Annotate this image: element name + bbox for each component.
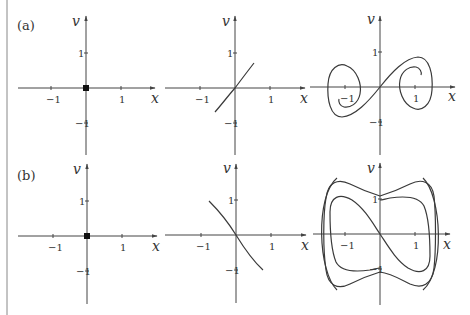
x-label: x: [448, 88, 456, 104]
x-tick-1: 1: [119, 94, 125, 105]
x-tick-neg1: −1: [340, 93, 355, 104]
x-tick-neg1: −1: [340, 240, 355, 251]
x-label: x: [443, 236, 451, 252]
row-label-a: (a): [17, 18, 35, 33]
v-tick-neg1: −1: [369, 117, 384, 128]
fixed-point: [83, 85, 89, 91]
v-tick-1: 1: [78, 48, 84, 59]
phase-portrait-figure: (a) (b) −1 1 1 −1 v x −1 1 1 −1 v x: [0, 0, 470, 315]
trajectory-right-loop: [380, 57, 432, 109]
v-tick-neg1: −1: [225, 265, 240, 276]
x-tick-neg1: −1: [196, 241, 211, 252]
x-label: x: [301, 237, 309, 253]
x-tick-neg1: −1: [48, 242, 63, 253]
v-tick-neg1: −1: [75, 118, 90, 129]
x-tick-1: 1: [268, 94, 274, 105]
v-label: v: [72, 13, 80, 29]
panel-a1: −1 1 1 −1 v x: [18, 13, 159, 155]
v-label: v: [367, 160, 375, 176]
x-tick-neg1: −1: [46, 94, 61, 105]
v-tick-1: 1: [228, 195, 234, 206]
v-tick-neg1: −1: [224, 118, 239, 129]
v-label: v: [367, 11, 375, 27]
v-label: v: [73, 161, 81, 177]
panel-b1: −1 1 1 −1 v x: [18, 161, 160, 304]
panel-b2: −1 1 1 −1 v x: [165, 160, 309, 303]
fixed-point: [84, 233, 90, 239]
v-tick-1: 1: [372, 47, 378, 58]
x-label: x: [152, 238, 160, 254]
x-tick-1: 1: [120, 242, 126, 253]
x-tick-1: 1: [413, 240, 419, 251]
panel-b3: −1 1 1 −1 v x: [313, 160, 451, 305]
trajectory-left-loop: [328, 65, 380, 117]
row-label-b: (b): [17, 168, 35, 183]
x-tick-neg1: −1: [195, 94, 210, 105]
x-tick-1: 1: [413, 93, 419, 104]
x-label: x: [151, 90, 159, 106]
v-label: v: [222, 13, 230, 29]
v-tick-1: 1: [227, 48, 233, 59]
panel-a2: −1 1 1 −1 v x: [165, 13, 308, 155]
v-label: v: [223, 160, 231, 176]
x-label: x: [300, 90, 308, 106]
x-tick-1: 1: [269, 241, 275, 252]
v-tick-neg1: −1: [76, 266, 91, 277]
v-tick-1: 1: [79, 196, 85, 207]
panel-a3: −1 1 1 −1 v x: [310, 11, 456, 155]
